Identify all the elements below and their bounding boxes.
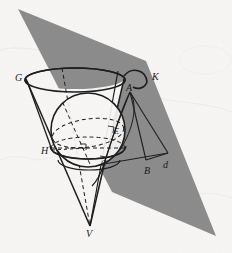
label-A: A: [126, 83, 132, 93]
label-B: B: [144, 166, 150, 176]
label-d: d: [163, 160, 168, 170]
label-G: G: [15, 73, 22, 83]
label-E: E: [114, 128, 119, 136]
label-H: H: [41, 146, 48, 156]
geometry-figure: G K A H E C B d V: [0, 0, 232, 253]
label-C: C: [101, 160, 106, 168]
label-V: V: [86, 229, 92, 239]
label-K: K: [152, 72, 159, 82]
